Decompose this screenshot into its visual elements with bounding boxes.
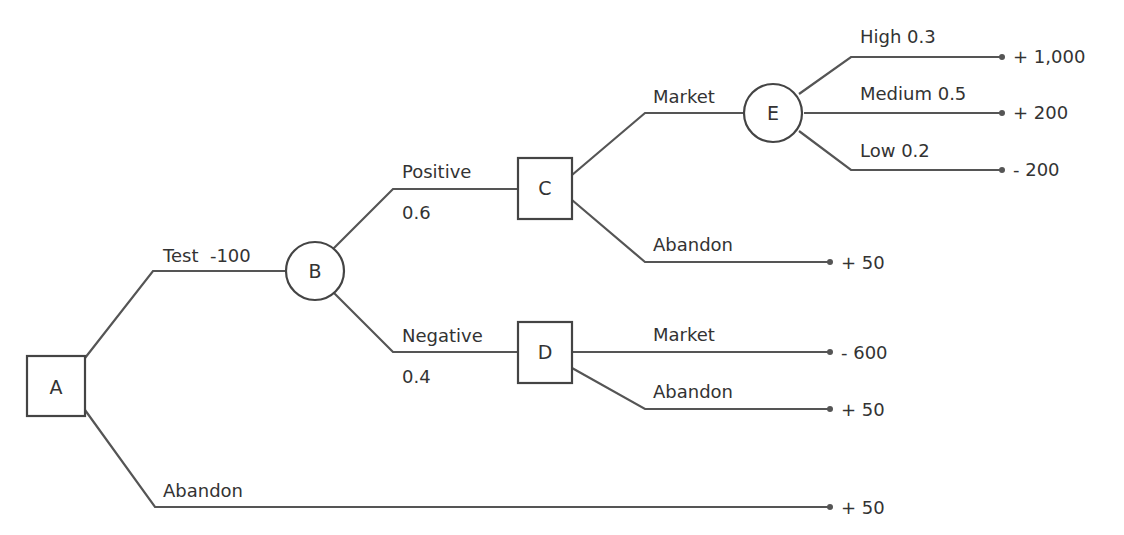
payoff-high: + 1,000 [1013,46,1085,67]
label-c-abandon: Abandon [653,234,733,255]
label-negative-prob: 0.4 [402,366,431,387]
node-a-label: A [50,376,63,398]
label-d-abandon: Abandon [653,381,733,402]
payoff-a-abandon: + 50 [841,497,885,518]
node-e-label: E [767,102,779,124]
node-c-label: C [538,177,551,199]
terminal-dot [827,259,833,265]
label-c-market: Market [653,86,715,107]
label-high: High 0.3 [860,26,936,47]
terminal-dot [827,406,833,412]
terminal-dot [827,504,833,510]
label-test: Test -100 [162,245,251,266]
node-d-label: D [538,341,553,363]
payoff-c-abandon: + 50 [841,252,885,273]
terminal-dot [999,167,1005,173]
payoff-d-market: - 600 [841,342,888,363]
payoff-low: - 200 [1013,159,1060,180]
edge-a-test [85,271,289,358]
label-low: Low 0.2 [860,140,930,161]
node-b-label: B [308,260,321,282]
label-positive: Positive [402,161,471,182]
decision-tree: A B C D E Test -100 Abandon Positive 0.6… [0,0,1124,535]
label-positive-prob: 0.6 [402,202,431,223]
terminal-dot [827,349,833,355]
edge-c-market [572,113,744,175]
label-a-abandon: Abandon [163,480,243,501]
payoff-d-abandon: + 50 [841,399,885,420]
payoff-medium: + 200 [1013,102,1068,123]
label-d-market: Market [653,324,715,345]
label-medium: Medium 0.5 [860,83,966,104]
terminal-dot [999,110,1005,116]
terminal-dot [999,54,1005,60]
label-negative: Negative [402,325,483,346]
